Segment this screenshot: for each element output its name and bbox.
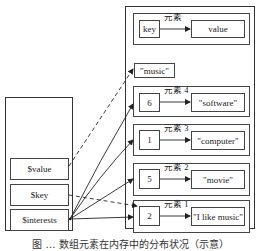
variable-value: $value [10,158,69,180]
legend-value: value [191,20,245,38]
element-4-key-text: 6 [147,98,152,108]
variable-key-label: $key [31,190,49,200]
variable-value-label: $value [28,164,52,174]
interests-arrow-element-2 [70,179,133,219]
element-1-value-text: "I like music" [193,212,243,222]
element-3-key: 1 [139,130,160,150]
element-3-value: "computer" [191,131,245,150]
music-string: "music" [134,63,175,78]
element-4-value-text: "software" [199,98,237,108]
figure-caption: 图 … 数组元素在内存中的分布状况（示意） [0,236,261,251]
interests-arrow-element-4 [70,104,133,219]
element-1-value: "I like music" [191,207,245,226]
element-1-label: 元素 1 [164,200,188,209]
element-3-key-text: 1 [147,135,152,145]
element-2-key: 5 [139,169,160,189]
element-2-value: "movie" [191,170,245,189]
element-2-key-text: 5 [147,174,152,184]
music-string-text: "music" [140,66,169,76]
variable-interests: $interests [10,209,69,231]
element-1-key-text: 2 [147,211,152,221]
element-1-key: 2 [139,206,160,226]
legend-value-text: value [208,24,228,34]
legend-key-text: key [143,24,156,34]
element-2-label: 元素 2 [164,163,188,172]
element-4-key: 6 [139,93,160,112]
element-3-label: 元素 3 [164,124,188,133]
variable-interests-label: $interests [22,215,57,225]
element-3-value-text: "computer" [197,136,238,146]
element-2-value-text: "movie" [203,175,233,185]
value-pointer-arrow [69,69,133,166]
legend-key: key [139,20,160,38]
variable-key: $key [10,184,69,206]
legend-label: 元素 [164,13,182,22]
element-4-value: "software" [191,93,245,112]
interests-arrow-element-3 [70,140,133,219]
element-4-label: 元素 4 [164,86,188,95]
interests-arrow-element-1 [70,217,133,219]
